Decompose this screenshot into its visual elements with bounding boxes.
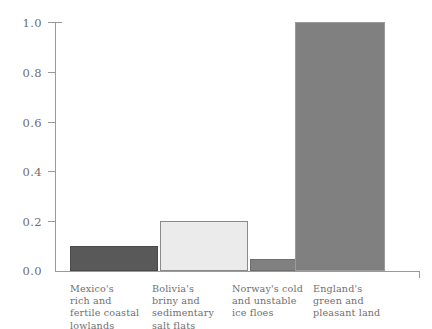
y-axis-line	[55, 22, 56, 271]
ytick-mark-1	[48, 22, 55, 23]
ytick-label-2: 0.8	[2, 66, 42, 80]
bar-england[interactable]	[295, 22, 385, 271]
ytick-label-5: 0.2	[2, 215, 42, 229]
category-label-line: briny and	[152, 295, 236, 307]
category-label-line: England's	[313, 283, 408, 295]
ytick-label-1: 1.0	[2, 16, 42, 30]
category-label-norway: Norway's cold and unstable ice floes	[232, 283, 322, 320]
category-label-bolivia: Bolivia's briny and sedimentary salt fla…	[152, 283, 236, 329]
bar-chart: 1.0 0.8 0.6 0.4 0.2 0.0 Mexico's rich an…	[0, 0, 432, 329]
category-label-line: salt flats	[152, 320, 236, 329]
category-label-line: Bolivia's	[152, 283, 236, 295]
category-label-line: Mexico's	[70, 283, 154, 295]
ytick-mark-4	[48, 171, 55, 172]
category-label-line: Norway's cold	[232, 283, 322, 295]
bar-bolivia[interactable]	[160, 221, 248, 271]
category-label-line: and unstable	[232, 295, 322, 307]
ytick-label-6: 0.0	[2, 264, 42, 278]
ytick-mark-5	[48, 221, 55, 222]
y-axis-top-cap	[55, 22, 62, 23]
ytick-label-3: 0.6	[2, 116, 42, 130]
category-label-england: England's green and pleasant land	[313, 283, 408, 320]
x-axis-end-cap	[419, 271, 420, 278]
ytick-label-4: 0.4	[2, 165, 42, 179]
category-label-line: lowlands	[70, 320, 154, 329]
bar-mexico[interactable]	[70, 246, 158, 271]
category-label-line: pleasant land	[313, 307, 408, 319]
category-label-line: rich and	[70, 295, 154, 307]
category-label-line: green and	[313, 295, 408, 307]
category-label-line: sedimentary	[152, 307, 236, 319]
ytick-mark-2	[48, 72, 55, 73]
category-label-line: fertile coastal	[70, 307, 154, 319]
category-label-mexico: Mexico's rich and fertile coastal lowlan…	[70, 283, 154, 329]
category-label-line: ice floes	[232, 307, 322, 319]
ytick-mark-3	[48, 122, 55, 123]
x-axis-line	[55, 271, 420, 272]
